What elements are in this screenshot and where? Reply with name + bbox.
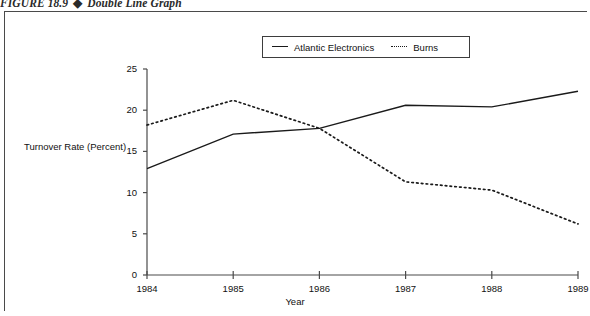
y-axis-title: Turnover Rate (Percent) xyxy=(24,141,126,152)
y-tick-label: 10 xyxy=(107,187,137,198)
y-tick-label: 0 xyxy=(107,269,137,280)
series-line-burns xyxy=(147,100,578,224)
series-line-atlantic-electronics xyxy=(147,91,578,168)
y-tick-label: 5 xyxy=(107,228,137,239)
x-axis-title: Year xyxy=(0,296,590,307)
x-tick-label: 1986 xyxy=(296,283,342,294)
y-tick-label: 20 xyxy=(107,104,137,115)
x-tick-label: 1987 xyxy=(383,283,429,294)
plot-area: 0510152025 198419851986198719881989 Turn… xyxy=(0,0,590,316)
x-tick-label: 1989 xyxy=(555,283,590,294)
figure-root: FIGURE 18.9◆Double Line Graph Atlantic E… xyxy=(0,0,590,316)
x-tick-label: 1984 xyxy=(124,283,170,294)
x-tick-label: 1985 xyxy=(210,283,256,294)
chart-canvas xyxy=(0,0,590,316)
x-tick-label: 1988 xyxy=(469,283,515,294)
y-tick-label: 25 xyxy=(107,63,137,74)
